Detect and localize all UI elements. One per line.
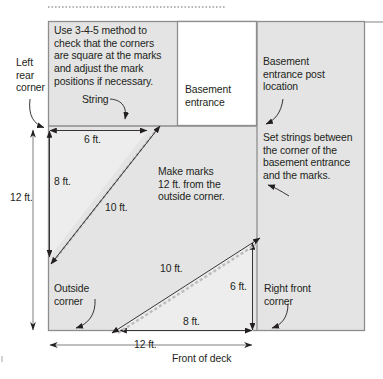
label-outside-corner: Outside corner	[54, 283, 114, 308]
dim-label-upper-diagonal-10ft: 10 ft.	[105, 202, 128, 215]
basement-entrance-box	[178, 22, 257, 126]
label-right-front-corner: Right front corner	[264, 283, 340, 308]
label-basement-entrance: Basement entrance	[185, 84, 255, 109]
dim-label-left-8ft: 8 ft.	[54, 176, 71, 189]
label-left-rear-corner: Left rear corner	[16, 57, 50, 95]
dim-label-top-6ft: 6 ft.	[84, 134, 101, 147]
note-set-strings: Set strings between the corner of the ba…	[263, 132, 371, 183]
deck-layout-diagram: Use 3-4-5 method to check that the corne…	[0, 0, 383, 379]
label-front-of-deck: Front of deck	[172, 353, 231, 366]
dim-label-left-12ft: 12 ft.	[10, 192, 33, 205]
dim-label-right-6ft: 6 ft.	[230, 281, 247, 294]
label-string: String	[82, 94, 109, 107]
dim-label-bottom-12ft: 12 ft.	[134, 339, 157, 352]
note-3-4-5-method: Use 3-4-5 method to check that the corne…	[54, 25, 180, 88]
dim-label-lower-diagonal-10ft: 10 ft.	[160, 263, 183, 276]
dim-label-bottom-8ft: 8 ft.	[183, 316, 200, 329]
leader-left-rear-corner	[30, 99, 44, 128]
label-basement-entrance-post: Basement entrance post location	[263, 56, 363, 94]
note-make-marks: Make marks 12 ft. from the outside corne…	[158, 166, 254, 204]
